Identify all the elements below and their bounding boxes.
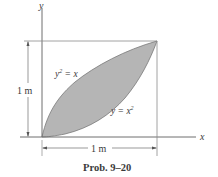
diagram-canvas: y x 1 m 1 m y2 = x y = x2 Prob. 9–20 [0, 0, 218, 177]
height-dimension-label: 1 m [17, 85, 33, 96]
x-axis-label: x [199, 131, 205, 142]
width-dimension-label: 1 m [91, 143, 107, 154]
curve-label-y2-equals-x: y2 = x [54, 68, 78, 79]
shaded-region [42, 41, 157, 137]
curve-label-y-equals-x2: y = x2 [110, 105, 134, 116]
figure-caption: Prob. 9–20 [83, 162, 131, 173]
y-axis-label: y [38, 0, 44, 11]
figure: y x 1 m 1 m y2 = x y = x2 Prob. 9–20 [0, 0, 218, 177]
